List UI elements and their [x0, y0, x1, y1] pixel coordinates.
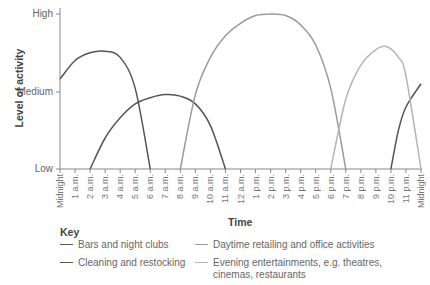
x-tick-label: 8 a.m.: [175, 174, 185, 199]
x-tick-label: 2 a.m.: [85, 174, 95, 199]
x-tick-label: 10 p.m.: [386, 174, 396, 204]
legend-swatch-icon: [60, 262, 73, 263]
legend-label: Daytime retailing and office activities: [213, 239, 375, 250]
legend-label: Evening entertainments, e.g. theatres,: [213, 257, 382, 268]
x-ticks: [60, 169, 421, 173]
x-tick-label: 12 a.m.: [236, 174, 246, 204]
x-tick-label: 11 p.m.: [401, 174, 411, 203]
x-tick-label: Midnight: [55, 174, 65, 208]
y-axis-title: Level of activity: [13, 43, 25, 133]
series-line: [180, 14, 345, 169]
x-tick-label: 7 p.m.: [341, 174, 351, 199]
x-tick-label: 3 a.m.: [100, 174, 110, 199]
series-lines: [60, 14, 421, 169]
x-axis-title: Time: [228, 216, 252, 228]
legend-item-cleaning: Cleaning and restocking: [60, 257, 185, 269]
legend-item-evening: Evening entertainments, e.g. theatres, c…: [195, 257, 382, 281]
x-tick-label: 1 p.m.: [251, 174, 261, 199]
legend-label: Bars and night clubs: [78, 239, 169, 250]
x-tick-label: 6 a.m.: [145, 174, 155, 199]
x-tick-label: 3 p.m.: [281, 174, 291, 199]
legend-item-daytime: Daytime retailing and office activities: [195, 239, 375, 251]
series-line: [60, 51, 150, 169]
activity-chart: High Medium Low Level of activity Midnig…: [0, 0, 430, 285]
x-tick-label: 8 p.m.: [356, 174, 366, 199]
legend-title: Key: [60, 226, 79, 238]
x-tick-label: 2 p.m.: [266, 174, 276, 199]
legend-item-bars: Bars and night clubs: [60, 239, 169, 251]
x-tick-label: 5 a.m.: [130, 174, 140, 199]
y-tick-label-high: High: [13, 8, 53, 19]
x-tick-label: 10 a.m.: [205, 174, 215, 204]
x-tick-label: 1 a.m.: [70, 174, 80, 199]
series-line: [331, 46, 421, 169]
legend-swatch-icon: [60, 244, 73, 245]
series-line: [90, 95, 225, 169]
legend-label: Cleaning and restocking: [78, 257, 185, 268]
x-tick-label: 6 p.m.: [326, 174, 336, 199]
x-tick-label: 11 a.m.: [220, 174, 230, 203]
legend-swatch-icon: [195, 244, 208, 245]
legend-swatch-icon: [195, 262, 208, 263]
x-tick-label: Midnight: [416, 174, 426, 208]
x-tick-label: 9 a.m.: [190, 174, 200, 199]
series-line: [391, 84, 421, 169]
x-tick-label: 5 p.m.: [311, 174, 321, 199]
x-tick-label: 7 a.m.: [160, 174, 170, 199]
x-tick-label: 4 p.m.: [296, 174, 306, 199]
x-tick-label: 9 p.m.: [371, 174, 381, 199]
x-tick-label: 4 a.m.: [115, 174, 125, 199]
y-tick-label-low: Low: [13, 163, 53, 174]
legend-label-cont: cinemas, restaurants: [195, 269, 306, 280]
